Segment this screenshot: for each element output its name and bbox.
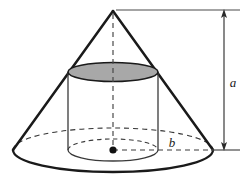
geometry-figure: a b [0,0,249,183]
base-center-dot [109,146,116,153]
cone-cylinder-svg: a b [0,0,249,183]
height-label-a: a [230,75,237,90]
radius-label-b: b [169,135,176,150]
